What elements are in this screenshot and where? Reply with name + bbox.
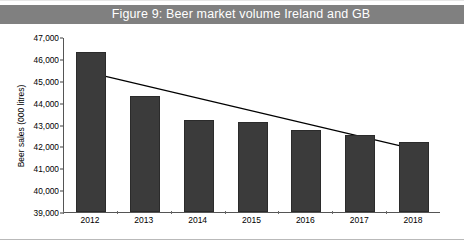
top-divider: [0, 0, 464, 1]
bar-chart: Beer sales (000 litres) 47,00046,00045,0…: [0, 24, 464, 224]
bottom-divider: [0, 239, 464, 240]
y-axis-tick-label: 43,000: [34, 121, 59, 131]
y-axis-tick-label: 44,000: [34, 99, 59, 109]
plot-inner: [64, 38, 440, 212]
page-title: Figure 9: Beer market volume Ireland and…: [94, 5, 371, 24]
x-axis-tick-labels: 2012201320142015201620172018: [63, 215, 440, 231]
figure-container: Figure 9: Beer market volume Ireland and…: [0, 0, 464, 246]
bar: [184, 120, 214, 212]
x-axis-tick-mark: [63, 211, 64, 214]
x-axis-tick-label: 2018: [404, 215, 423, 225]
x-axis-tick-label: 2013: [134, 215, 153, 225]
plot-area: [63, 38, 440, 213]
bar: [238, 122, 268, 212]
y-axis-tick-label: 39,000: [34, 208, 59, 218]
y-axis-tick-label: 47,000: [34, 33, 59, 43]
y-axis-title-label: Beer sales (000 litres): [16, 84, 26, 167]
y-axis-tick-label: 45,000: [34, 77, 59, 87]
bar: [76, 52, 106, 212]
y-axis-tick-label: 46,000: [34, 55, 59, 65]
y-axis-tick-label: 41,000: [34, 164, 59, 174]
y-axis-tick-labels: 47,00046,00045,00044,00043,00042,00041,0…: [26, 38, 63, 213]
x-axis-tick-label: 2015: [242, 215, 261, 225]
x-axis-tick-mark: [225, 211, 226, 214]
x-axis-tick-mark: [278, 211, 279, 214]
bar: [345, 135, 375, 212]
x-axis-tick-label: 2016: [296, 215, 315, 225]
y-axis-tick-label: 42,000: [34, 142, 59, 152]
figure-title-bar: Figure 9: Beer market volume Ireland and…: [0, 5, 464, 24]
bar: [130, 96, 160, 212]
x-axis-tick-mark: [117, 211, 118, 214]
bar: [291, 130, 321, 212]
x-axis-tick-label: 2012: [80, 215, 99, 225]
x-axis-tick-label: 2014: [188, 215, 207, 225]
x-axis-tick-mark: [386, 211, 387, 214]
x-axis-tick-mark: [332, 211, 333, 214]
y-axis-tick-label: 40,000: [34, 186, 59, 196]
x-axis-tick-label: 2017: [350, 215, 369, 225]
x-axis-tick-mark: [171, 211, 172, 214]
bar: [399, 142, 429, 212]
